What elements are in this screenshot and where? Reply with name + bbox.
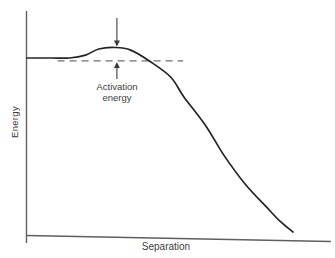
y-axis-label: Energy xyxy=(9,106,20,138)
energy-separation-figure: Energy Separation Activation energy xyxy=(0,0,335,258)
down-arrow-head xyxy=(114,41,120,47)
x-axis-label: Separation xyxy=(142,241,190,252)
activation-energy-label-line1: Activation xyxy=(96,81,137,92)
activation-energy-label: Activation energy xyxy=(96,81,137,103)
energy-curve xyxy=(27,47,293,232)
activation-energy-label-line2: energy xyxy=(96,92,137,103)
up-arrow-head xyxy=(114,62,120,68)
plot-svg xyxy=(0,0,335,258)
